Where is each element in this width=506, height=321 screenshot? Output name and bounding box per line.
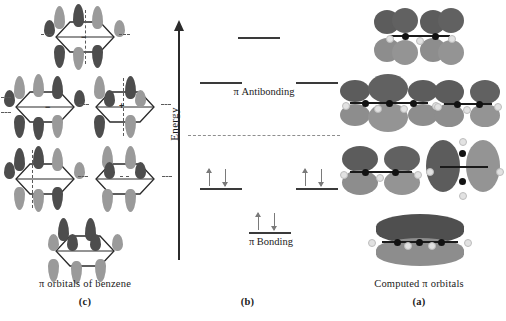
computed-orbital-antibonding-left <box>338 74 442 132</box>
p-lobe <box>125 115 136 138</box>
orbital-lowest-bonding <box>42 218 128 284</box>
orbital-antibonding-degenerate-left: − <box>2 74 88 140</box>
p-lobe <box>104 162 115 179</box>
panel-a-caption: Computed π orbitals <box>332 278 506 289</box>
panel-c-letter: (c) <box>0 296 170 307</box>
p-lobe <box>33 189 44 212</box>
electron-spin-down-arrow <box>274 213 275 230</box>
panel-b-energy-diagram: Energy π Antibonding π Bonding (b) <box>155 0 340 321</box>
orbital-bonding-degenerate-left <box>2 146 88 212</box>
p-lobe <box>33 74 44 97</box>
p-lobe <box>125 146 136 169</box>
antibonding-label: π Antibonding <box>188 86 340 97</box>
p-lobe <box>94 76 105 99</box>
p-lobe <box>48 234 59 251</box>
p-lobe <box>135 90 146 107</box>
p-lobe <box>33 146 44 169</box>
panel-a-letter: (a) <box>332 296 506 307</box>
computed-orbital-highest-antibonding <box>372 8 468 66</box>
phase-sign: − <box>45 103 50 112</box>
p-lobe <box>102 189 113 212</box>
p-lobe <box>73 4 84 27</box>
nodal-plane-marker <box>1 97 11 98</box>
p-lobe <box>14 148 25 171</box>
energy-level-4 <box>200 82 242 84</box>
p-lobe <box>90 234 101 251</box>
p-lobe <box>104 90 115 107</box>
computed-orbital-bonding-left <box>340 142 428 198</box>
p-lobe <box>52 187 63 210</box>
p-lobe <box>4 162 15 179</box>
energy-level-1 <box>249 232 291 234</box>
p-lobe <box>125 76 136 99</box>
p-lobe <box>4 90 15 107</box>
nodal-plane-marker <box>41 34 52 35</box>
p-lobe <box>73 47 84 70</box>
computed-orbital-lowest-bonding <box>368 212 472 268</box>
panel-a-computed-orbitals: Computed π orbitals (a) <box>332 0 506 321</box>
computed-orbital-bonding-right <box>426 138 504 200</box>
nodal-plane-marker <box>32 150 33 208</box>
p-lobe <box>54 45 65 68</box>
panel-c-orbital-diagrams: − − <box>0 0 170 321</box>
electron-spin-down-arrow <box>321 169 322 186</box>
p-lobe <box>92 45 103 68</box>
p-lobe <box>52 148 63 171</box>
electron-spin-up-arrow <box>305 169 306 186</box>
panel-c-caption: π orbitals of benzene <box>0 278 170 289</box>
benzene-pi-orbital-figure: − − <box>0 0 506 321</box>
phase-sign: − <box>81 33 86 42</box>
nodal-plane-marker <box>78 176 88 177</box>
p-lobe <box>33 117 44 140</box>
nodal-plane-marker <box>79 104 89 105</box>
electron-spin-up-arrow <box>209 169 210 186</box>
p-lobe <box>14 115 25 138</box>
p-lobe <box>135 162 146 179</box>
electron-spin-down-arrow <box>225 169 226 186</box>
orbital-highest-antibonding: − <box>42 4 128 70</box>
bonding-label: π Bonding <box>195 236 347 247</box>
p-lobe <box>92 6 103 29</box>
computed-orbital-antibonding-right <box>432 76 504 130</box>
nodal-plane-marker <box>120 176 129 177</box>
nonbonding-reference-line <box>188 135 340 136</box>
energy-axis-label: Energy <box>168 89 180 159</box>
p-lobe <box>125 189 136 212</box>
phase-sign: + <box>119 102 124 111</box>
p-lobe <box>67 234 78 251</box>
panel-b-letter: (b) <box>155 296 340 307</box>
p-lobe <box>52 76 63 99</box>
p-lobe <box>52 115 63 138</box>
energy-level-6 <box>238 37 280 39</box>
p-lobe <box>14 187 25 210</box>
p-lobe <box>112 234 123 251</box>
electron-spin-up-arrow <box>258 213 259 230</box>
nodal-plane-marker <box>119 34 130 35</box>
p-lobe <box>54 6 65 29</box>
p-lobe <box>94 115 105 138</box>
nodal-plane-marker <box>1 112 11 113</box>
energy-level-2 <box>200 188 242 190</box>
p-lobe <box>14 76 25 99</box>
